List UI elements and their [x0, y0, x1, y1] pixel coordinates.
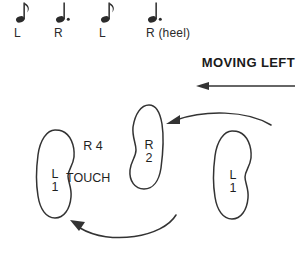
diagram-vector-layer [0, 0, 299, 254]
annotation-touch: TOUCH [66, 172, 110, 185]
annotation-touch-text: TOUCH [66, 171, 110, 185]
moving-left-arrow-icon [196, 82, 295, 90]
footprint-label-left-foot-far-left: L 1 [43, 168, 67, 194]
annotation-r-four: R 4 [82, 140, 104, 153]
lower-motion-arc-icon [70, 215, 176, 238]
foot-beat: 2 [137, 152, 161, 165]
foot-letter: L [52, 167, 59, 181]
footprint-label-right-foot-middle: R 2 [137, 139, 161, 165]
foot-letter: L [230, 168, 237, 182]
annotation-r-four-line1: R [83, 139, 92, 153]
upper-motion-arc-icon [166, 113, 271, 125]
footprint-label-left-foot-right: L 1 [221, 169, 245, 195]
foot-letter: R [144, 138, 153, 152]
foot-beat: 1 [43, 181, 67, 194]
footwork-diagram-figure: L R L R (heel) [0, 0, 299, 254]
foot-beat: 1 [221, 182, 245, 195]
annotation-r-four-line2: 4 [96, 139, 103, 153]
